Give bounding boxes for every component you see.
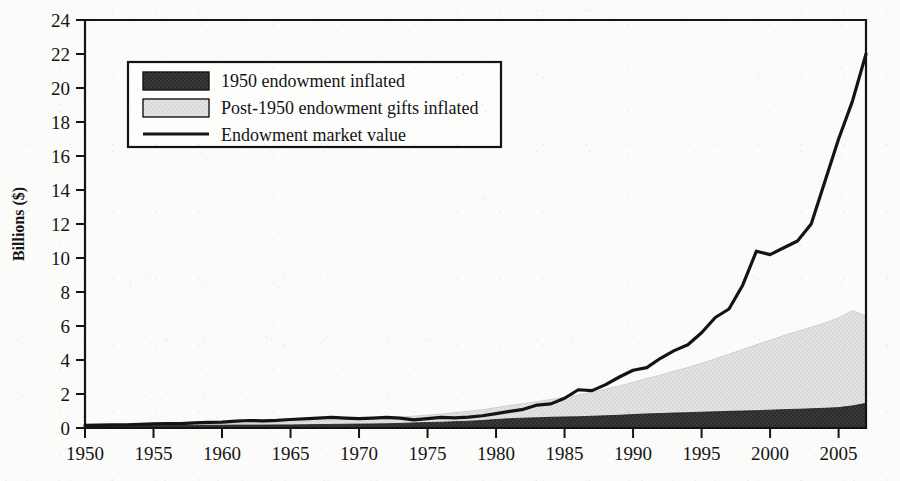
y-tick-label: 6 — [61, 316, 71, 337]
x-tick-label: 1990 — [614, 443, 652, 464]
y-tick-label: 16 — [51, 146, 70, 167]
x-tick-label: 2005 — [820, 443, 858, 464]
x-tick-label: 1950 — [66, 443, 104, 464]
y-tick-label: 10 — [51, 248, 70, 269]
y-axis-title-text: Billions ($) — [10, 187, 28, 261]
y-tick-label: 18 — [51, 112, 70, 133]
legend-swatch-post-1950-gifts-inflated — [143, 99, 209, 117]
y-tick-label: 0 — [61, 418, 71, 439]
legend-label-endowment-market-value: Endowment market value — [221, 125, 406, 145]
y-tick-label: 20 — [51, 78, 70, 99]
y-tick-label: 22 — [51, 44, 70, 65]
x-tick-label: 1960 — [203, 443, 241, 464]
y-tick-label: 2 — [61, 384, 71, 405]
x-tick-label: 1965 — [272, 443, 310, 464]
legend-swatch-1950-endowment-inflated — [143, 72, 209, 90]
y-tick-label: 4 — [61, 350, 71, 371]
x-tick-label: 1955 — [135, 443, 173, 464]
x-tick-label: 1980 — [477, 443, 515, 464]
endowment-growth-chart: 024681012141618202224 195019551960196519… — [0, 0, 900, 481]
chart-legend: 1950 endowment inflated Post-1950 endowm… — [128, 62, 501, 147]
y-tick-label: 14 — [51, 180, 71, 201]
y-tick-label: 8 — [61, 282, 71, 303]
y-tick-label: 12 — [51, 214, 70, 235]
x-tick-label: 1995 — [683, 443, 721, 464]
x-tick-label: 2000 — [751, 443, 789, 464]
y-tick-label: 24 — [51, 10, 71, 31]
legend-label-post-1950-gifts-inflated: Post-1950 endowment gifts inflated — [221, 98, 478, 118]
x-tick-label: 1970 — [340, 443, 378, 464]
legend-label-1950-endowment-inflated: 1950 endowment inflated — [221, 71, 405, 91]
x-tick-label: 1985 — [546, 443, 584, 464]
y-axis-title: Billions ($) — [10, 187, 28, 261]
x-tick-label: 1975 — [409, 443, 447, 464]
chart-figure: 024681012141618202224 195019551960196519… — [0, 0, 900, 481]
